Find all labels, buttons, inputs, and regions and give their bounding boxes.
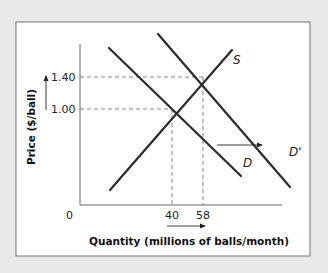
x-tick-label-40: 40 [165, 209, 179, 222]
demand-prime-curve-label: D' [289, 145, 302, 159]
x-tick-label-58: 58 [196, 209, 210, 222]
chart-panel [16, 22, 310, 256]
origin-label: 0 [66, 209, 73, 222]
y-axis-title: Price ($/ball) [25, 89, 37, 165]
supply-demand-chart: S D D' 1.40 1.00 0 40 58 Quantity (milli… [0, 0, 328, 273]
demand-curve-label: D [243, 156, 252, 170]
x-axis-title: Quantity (millions of balls/month) [89, 235, 289, 247]
y-tick-label-1-40: 1.40 [51, 71, 76, 84]
y-tick-label-1-00: 1.00 [51, 103, 76, 116]
supply-curve-label: S [233, 53, 241, 67]
